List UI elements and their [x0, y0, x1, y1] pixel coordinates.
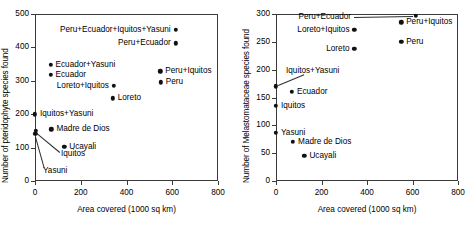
x-tick-label-melastomataceae: 400 [352, 188, 382, 197]
data-point-label: Iquitos [61, 150, 85, 158]
data-point-label: Loreto+Iquitos [297, 25, 349, 33]
panel-pteridophyte: 01002003004005000200400600800Area covere… [0, 0, 236, 226]
x-tick-pteridophyte [35, 181, 36, 185]
y-tick-pteridophyte [31, 47, 35, 48]
y-axis-title-melastomataceae: Number of Melastomataceae species found [242, 29, 251, 183]
data-point-label: Loreto [326, 45, 349, 53]
x-tick-pteridophyte [127, 181, 128, 185]
x-axis-title-melastomataceae: Area covered (1000 sq km) [276, 205, 458, 214]
x-tick-label-melastomataceae: 200 [307, 188, 337, 197]
x-tick-melastomataceae [276, 181, 277, 185]
y-tick-melastomataceae [272, 42, 276, 43]
data-point-label: Ecuador+Yasuni [56, 61, 116, 69]
x-tick-pteridophyte [172, 181, 173, 185]
y-tick-melastomataceae [272, 70, 276, 71]
data-point-label: Peru+Ecuador [118, 39, 171, 47]
data-point-label: Ecuador [56, 71, 87, 79]
panel-melastomataceae: 0501001502002503000200400600800Area cove… [236, 0, 472, 226]
data-point-label: Madre de Dios [298, 138, 351, 146]
y-tick-melastomataceae [272, 125, 276, 126]
y-tick-pteridophyte [31, 148, 35, 149]
figure-two-panel-scatter: 01002003004005000200400600800Area covere… [0, 0, 472, 226]
x-tick-melastomataceae [458, 181, 459, 185]
x-axis-title-pteridophyte: Area covered (1000 sq km) [35, 205, 218, 214]
x-tick-pteridophyte [81, 181, 82, 185]
x-tick-label-pteridophyte: 200 [66, 188, 96, 197]
y-tick-label-pteridophyte: 500 [3, 9, 29, 18]
data-point-label: Peru+Iquitos [406, 18, 452, 26]
data-point-label: Loreto+Iquitos [57, 82, 109, 90]
data-point-label: Yasuni [43, 167, 67, 175]
y-tick-melastomataceae [272, 14, 276, 15]
data-point-label: Peru [166, 78, 183, 86]
x-tick-label-melastomataceae: 600 [398, 188, 428, 197]
x-tick-label-pteridophyte: 0 [20, 188, 50, 197]
data-point-label: Iquitos [281, 102, 305, 110]
x-tick-label-melastomataceae: 0 [261, 188, 291, 197]
y-tick-pteridophyte [31, 14, 35, 15]
y-axis-title-pteridophyte: Number of pteridophyte species found [1, 48, 10, 183]
x-tick-label-pteridophyte: 800 [203, 188, 233, 197]
data-point-label: Madre de Dios [56, 125, 109, 133]
x-tick-pteridophyte [218, 181, 219, 185]
x-tick-label-pteridophyte: 400 [112, 188, 142, 197]
x-tick-label-pteridophyte: 600 [157, 188, 187, 197]
data-point-label: Ecuador [297, 88, 328, 96]
y-tick-pteridophyte [31, 81, 35, 82]
y-tick-melastomataceae [272, 153, 276, 154]
data-point-label: Iquitos+Yasuni [286, 67, 339, 75]
data-point-label: Peru+Iquitos [165, 67, 211, 75]
data-point-label: Loreto [118, 94, 141, 102]
data-point-label: Iquitos+Yasuni [40, 110, 93, 118]
data-point-label: Yasuni [281, 128, 305, 136]
x-tick-melastomataceae [413, 181, 414, 185]
y-tick-melastomataceae [272, 98, 276, 99]
x-tick-melastomataceae [322, 181, 323, 185]
data-point-label: Peru [406, 38, 423, 46]
y-tick-label-melastomataceae: 300 [244, 9, 270, 18]
x-tick-melastomataceae [367, 181, 368, 185]
data-point-label: Peru+Ecuador+Iquitos+Yasuni [60, 26, 171, 34]
data-point-label: Ucayali [309, 152, 336, 160]
x-tick-label-melastomataceae: 800 [443, 188, 472, 197]
data-point-label: Peru+Ecuador [298, 13, 351, 21]
